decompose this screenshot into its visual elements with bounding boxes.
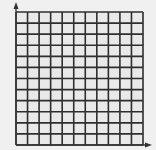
coordinate-grid-chart	[0, 0, 156, 150]
